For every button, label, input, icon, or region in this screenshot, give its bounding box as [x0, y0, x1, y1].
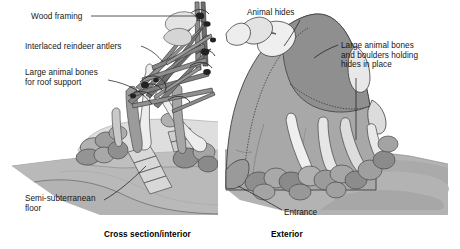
panel-divider — [218, 0, 225, 225]
caption-cross-section: Cross section/interior — [104, 230, 191, 239]
dwelling-diagram — [0, 0, 460, 249]
caption-exterior: Exterior — [271, 230, 303, 239]
diagram-canvas — [0, 0, 460, 249]
